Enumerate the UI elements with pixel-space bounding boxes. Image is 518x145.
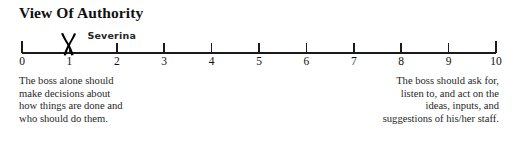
scale-tick-label-6: 6 — [291, 55, 321, 68]
scale-tick-1[interactable] — [69, 43, 71, 53]
scale-tick-label-2: 2 — [102, 55, 132, 68]
scale-tick-label-10: 10 — [481, 55, 511, 68]
scale-tick-4[interactable] — [211, 43, 213, 53]
anchor-high-line: listen to, and act on the — [299, 88, 499, 101]
scale-tick-6[interactable] — [306, 43, 308, 53]
anchor-label-high: The boss should ask for, listen to, and … — [299, 75, 499, 125]
scale-tick-9[interactable] — [448, 43, 450, 53]
scale-tick-label-3: 3 — [149, 55, 179, 68]
scale-tick-label-7: 7 — [339, 55, 369, 68]
survey-rating-item: View Of Authority 012345678910 Severina … — [0, 0, 518, 145]
scale-tick-label-5: 5 — [244, 55, 274, 68]
anchor-low-line: how things are done and — [19, 100, 209, 113]
anchor-high-line: ideas, inputs, and — [299, 100, 499, 113]
respondent-name-label: Severina — [87, 30, 136, 41]
scale-tick-7[interactable] — [353, 43, 355, 53]
scale-tick-5[interactable] — [258, 43, 260, 53]
anchor-low-line: who should do them. — [19, 113, 209, 126]
anchor-label-low: The boss alone should make decisions abo… — [19, 75, 209, 125]
scale-tick-label-1: 1 — [54, 55, 84, 68]
anchor-high-line: suggestions of his/her staff. — [299, 113, 499, 126]
scale-tick-label-0: 0 — [7, 55, 37, 68]
scale-tick-0[interactable] — [21, 41, 23, 53]
scale-tick-3[interactable] — [163, 43, 165, 53]
anchor-high-line: The boss should ask for, — [299, 75, 499, 88]
scale-tick-label-4: 4 — [197, 55, 227, 68]
scale-tick-10[interactable] — [495, 41, 497, 53]
rating-scale[interactable]: 012345678910 Severina — [0, 30, 518, 70]
scale-tick-8[interactable] — [400, 43, 402, 53]
page-title: View Of Authority — [19, 3, 143, 22]
scale-tick-label-8: 8 — [386, 55, 416, 68]
scale-tick-label-9: 9 — [434, 55, 464, 68]
anchor-low-line: make decisions about — [19, 88, 209, 101]
scale-tick-2[interactable] — [116, 43, 118, 53]
anchor-low-line: The boss alone should — [19, 75, 209, 88]
